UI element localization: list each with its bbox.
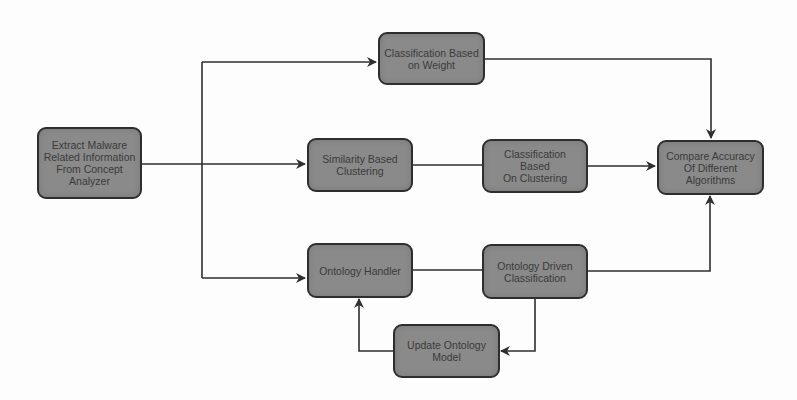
edge-ontology-driven-to-update	[501, 298, 535, 351]
node-ontology-driven-classification: Ontology Driven Classification	[482, 244, 588, 299]
node-similarity-clustering: Similarity Based Clustering	[307, 138, 413, 192]
edge-update-to-ontology-handler	[359, 299, 393, 351]
edge-ontology-driven-to-compare	[587, 196, 710, 271]
node-label: Classification Based On Clustering	[488, 148, 582, 184]
node-classification-weight: Classification Based on Weight	[378, 32, 485, 85]
node-ontology-handler: Ontology Handler	[307, 243, 413, 298]
node-label: Ontology Handler	[319, 265, 401, 277]
node-compare-accuracy: Compare Accuracy Of Different Algorithms	[657, 140, 764, 195]
node-extract-malware-info: Extract Malware Related Information From…	[37, 127, 142, 199]
node-label: Classification Based on Weight	[384, 47, 479, 71]
node-label: Similarity Based Clustering	[322, 153, 397, 177]
diagram-canvas: Extract Malware Related Information From…	[0, 0, 797, 400]
node-classification-clustering: Classification Based On Clustering	[482, 139, 588, 193]
node-label: Extract Malware Related Information From…	[44, 139, 136, 187]
edge-weight-to-compare	[484, 59, 711, 138]
node-label: Compare Accuracy Of Different Algorithms	[666, 150, 755, 186]
node-label: Update Ontology Model	[407, 339, 486, 363]
node-update-ontology-model: Update Ontology Model	[393, 324, 500, 378]
node-label: Ontology Driven Classification	[497, 260, 572, 284]
